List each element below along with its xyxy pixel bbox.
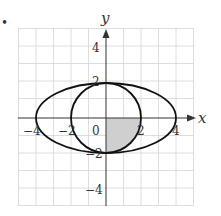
bullet-marker: •: [1, 16, 8, 30]
x-axis-arrow-icon: [187, 115, 196, 122]
axes: [18, 36, 190, 206]
y-tick-label-neg2: −2: [85, 147, 103, 161]
y-axis-arrow-icon: [103, 29, 110, 38]
origin-label: 0: [92, 124, 100, 138]
y-tick-label-4: 4: [92, 41, 100, 55]
x-tick-label-neg4: −4: [23, 124, 41, 138]
x-tick-label-neg2: −2: [58, 124, 76, 138]
y-tick-label-2: 2: [92, 75, 100, 89]
x-tick-label-4: 4: [172, 124, 180, 138]
y-tick-label-neg4: −4: [85, 183, 103, 197]
x-axis-label: x: [198, 109, 207, 127]
figure: • y x 4 2 −2 −4 −4 −2: [0, 0, 221, 216]
x-tick-label-2: 2: [137, 124, 145, 138]
y-axis-label: y: [100, 9, 110, 27]
